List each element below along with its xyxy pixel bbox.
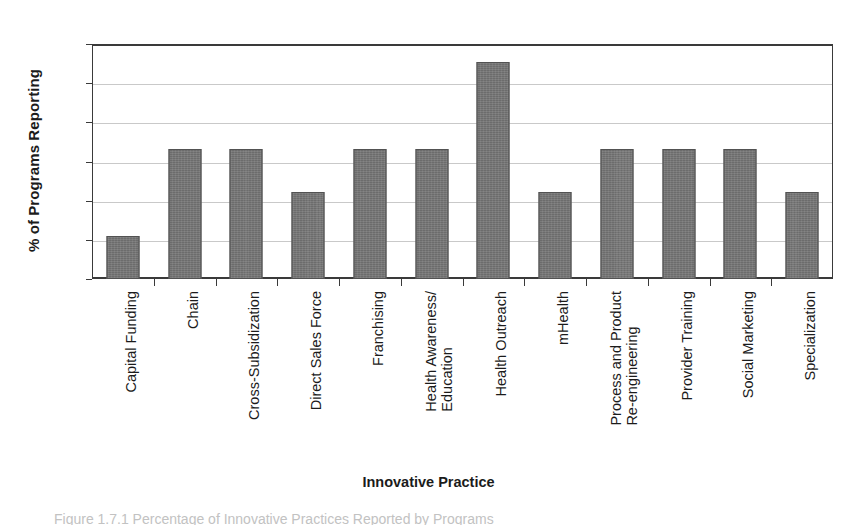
x-axis-category-label-line: Process and Product (608, 291, 624, 426)
bar-slot (216, 44, 278, 279)
x-axis-title: Innovative Practice (0, 474, 857, 490)
bar[interactable] (662, 149, 695, 279)
bar-slot (277, 44, 339, 279)
bar[interactable] (477, 62, 510, 279)
bar-slot (92, 44, 154, 279)
x-axis-tick-mark (277, 279, 278, 286)
x-axis-category-label-line: mHealth (555, 291, 571, 345)
x-axis-category-label-line: Re-engineering (624, 291, 640, 426)
x-axis-tick-mark (339, 279, 340, 286)
bar[interactable] (539, 192, 572, 279)
x-axis-tick-mark (154, 279, 155, 286)
x-axis-tick-mark (710, 279, 711, 286)
x-axis-category-label-line: Social Marketing (740, 291, 756, 398)
x-axis-category-label-line: Education (439, 291, 455, 412)
x-axis-tick-mark (648, 279, 649, 286)
x-axis-tick-mark (771, 279, 772, 286)
x-axis-tick-mark (524, 279, 525, 286)
x-axis-tick-mark (401, 279, 402, 286)
x-axis-category-label: mHealth (555, 291, 609, 469)
x-axis-category-label-line: Cross-Subsidization (246, 291, 262, 420)
y-axis-tick-mark (86, 279, 92, 280)
bar[interactable] (168, 149, 201, 279)
bar[interactable] (292, 192, 325, 279)
x-axis-tick-mark (216, 279, 217, 286)
bar[interactable] (106, 236, 139, 279)
bar[interactable] (353, 149, 386, 279)
x-axis-category-label-line: Chain (185, 291, 201, 329)
x-axis-category-label-line: Direct Sales Force (308, 291, 324, 410)
figure-caption: Figure 1.7.1 Percentage of Innovative Pr… (54, 512, 814, 525)
y-axis-title: % of Programs Reporting (25, 36, 42, 286)
bar-slot (648, 44, 710, 279)
x-axis-category-label-line: Specialization (802, 291, 818, 380)
bar-slot (586, 44, 648, 279)
bar-slot (154, 44, 216, 279)
bar[interactable] (415, 149, 448, 279)
x-axis-tick-mark (463, 279, 464, 286)
bar-slot (710, 44, 772, 279)
bar-series (92, 44, 833, 279)
x-axis-category-label: Specialization (802, 291, 857, 469)
x-axis-category-label: Chain (185, 291, 223, 469)
x-axis-tick-mark (586, 279, 587, 286)
bar-slot (463, 44, 525, 279)
bar-chart-figure: % of Programs Reporting 0102030405060 Ca… (0, 0, 857, 525)
x-axis-category-label-line: Capital Funding (123, 291, 139, 393)
bar-slot (524, 44, 586, 279)
x-axis-category-label-line: Franchising (370, 291, 386, 366)
bar[interactable] (786, 192, 819, 279)
bar-slot (339, 44, 401, 279)
x-axis-category-label-line: Health Awareness/ (423, 291, 439, 412)
x-axis-category-label-line: Provider Training (679, 291, 695, 401)
bar[interactable] (230, 149, 263, 279)
bar-slot (401, 44, 463, 279)
x-axis-category-label-line: Health Outreach (493, 291, 509, 397)
bar[interactable] (600, 149, 633, 279)
bar[interactable] (724, 149, 757, 279)
bar-slot (771, 44, 833, 279)
